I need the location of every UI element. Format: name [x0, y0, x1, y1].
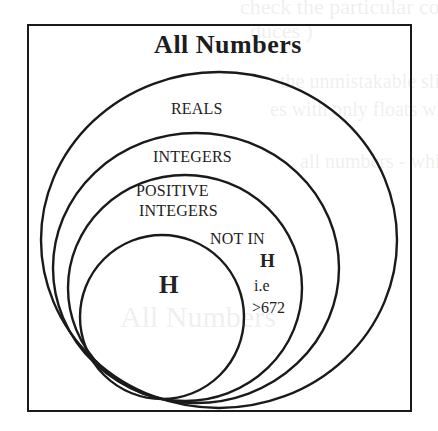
- greater-than-672-label: >672: [252, 300, 285, 316]
- positive-integers-label-line2: INTEGERS: [139, 203, 218, 219]
- integers-label: INTEGERS: [153, 149, 232, 165]
- reals-label: REALS: [171, 101, 223, 117]
- not-in-h-label: H: [260, 251, 275, 270]
- venn-diagram: [0, 0, 438, 431]
- h-set-ellipse: [80, 235, 244, 399]
- not-in-label: NOT IN: [210, 231, 265, 247]
- ie-label: i.e: [254, 278, 270, 294]
- h-set-label: H: [159, 272, 178, 297]
- positive-integers-label-line1: POSITIVE: [136, 183, 209, 199]
- diagram-title: All Numbers: [0, 32, 438, 58]
